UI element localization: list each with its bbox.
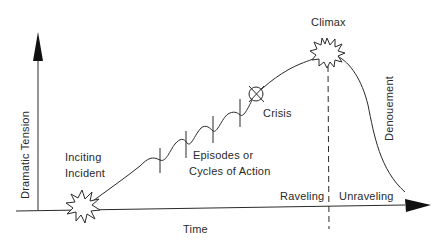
crisis-marker-icon xyxy=(249,86,264,102)
climax-divider-dashed-line xyxy=(328,66,329,229)
x-axis-arrow-icon xyxy=(405,199,431,212)
denouement-label: Denouement xyxy=(384,76,395,141)
inciting-incident-burst-icon xyxy=(66,190,100,223)
dramatic-structure-diagram: Dramatic Tension Time Inciting Incident … xyxy=(0,0,446,246)
y-axis-arrow-icon xyxy=(33,32,43,61)
unraveling-label: Unraveling xyxy=(339,191,394,202)
rising-action-curve xyxy=(90,58,318,203)
inciting-incident-label-line1: Inciting xyxy=(65,152,101,163)
climax-label: Climax xyxy=(311,17,346,28)
inciting-incident-label-line2: Incident xyxy=(65,168,105,179)
x-axis-label: Time xyxy=(183,224,208,235)
climax-burst-icon xyxy=(310,38,345,68)
diagram-graphics xyxy=(0,0,446,246)
raveling-label: Raveling xyxy=(280,191,324,202)
y-axis-label: Dramatic Tension xyxy=(20,111,31,199)
crisis-label: Crisis xyxy=(263,108,292,119)
episodes-label-line2: Cycles of Action xyxy=(189,166,270,177)
episodes-label-line1: Episodes or xyxy=(193,150,253,161)
